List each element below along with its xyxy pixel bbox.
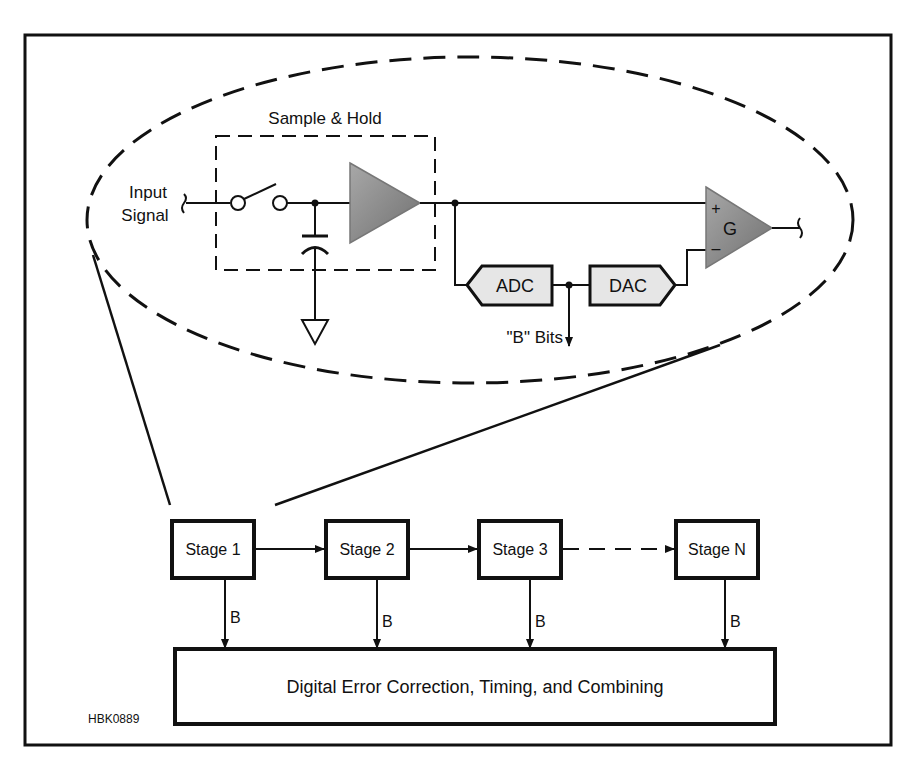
input-terminal-icon xyxy=(182,194,186,213)
stage-label: Stage 3 xyxy=(492,541,547,558)
sample-hold-label: Sample & Hold xyxy=(268,109,381,128)
b-label: B xyxy=(535,613,546,630)
input-label-2: Signal xyxy=(121,206,168,225)
minus-label: – xyxy=(712,240,721,257)
zoom-line-right xyxy=(275,345,720,505)
combiner-label: Digital Error Correction, Timing, and Co… xyxy=(286,677,663,697)
dac-label: DAC xyxy=(609,276,647,296)
wire xyxy=(675,250,706,285)
b-label: B xyxy=(730,613,741,630)
stage-label: Stage N xyxy=(688,541,746,558)
switch-arm xyxy=(244,184,276,199)
stage-label: Stage 2 xyxy=(339,541,394,558)
bits-label: "B" Bits xyxy=(507,328,563,347)
b-label: B xyxy=(382,613,393,630)
stage-n: Stage N xyxy=(676,521,758,578)
switch-contact-right xyxy=(273,196,287,210)
gain-label: G xyxy=(723,219,737,239)
input-label-1: Input xyxy=(129,183,167,202)
b-label: B xyxy=(230,609,241,626)
stage-2: Stage 2 xyxy=(326,521,408,578)
stage-3: Stage 3 xyxy=(479,521,561,578)
pipeline-adc-diagram: Sample & Hold Input Signal ADC "B" Bits … xyxy=(0,0,917,767)
zoom-line-left xyxy=(93,255,170,505)
buffer-amplifier-icon xyxy=(350,163,420,243)
ground-icon xyxy=(302,320,328,344)
stage-1: Stage 1 xyxy=(172,521,254,578)
wire xyxy=(455,203,467,285)
figure-frame xyxy=(25,35,891,745)
plus-label: + xyxy=(711,200,720,217)
stage-label: Stage 1 xyxy=(185,541,240,558)
figure-id: HBK0889 xyxy=(88,712,140,726)
adc-label: ADC xyxy=(496,276,534,296)
switch-contact-left xyxy=(231,196,245,210)
